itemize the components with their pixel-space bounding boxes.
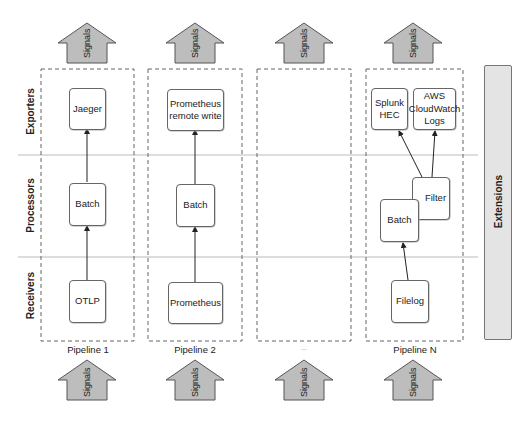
signal-arrow-label: Signals bbox=[190, 28, 200, 58]
signal-arrow-in-2: Signals bbox=[166, 360, 224, 400]
connector-filter-splunk bbox=[399, 131, 422, 177]
receiver-prometheus[interactable]: Prometheus bbox=[168, 282, 223, 324]
exporter-jaeger[interactable]: Jaeger bbox=[69, 88, 106, 130]
lane-label-receivers: Receivers bbox=[25, 251, 36, 341]
signal-arrow-in-1: Signals bbox=[58, 360, 116, 400]
processor-batch-2[interactable]: Batch bbox=[176, 184, 215, 227]
exporter-aws-cloudwatch-logs[interactable]: AWS CloudWatch Logs bbox=[413, 88, 456, 130]
extensions-label: Extensions bbox=[493, 157, 504, 247]
exporter-prometheus-remote-write[interactable]: Prometheus remote write bbox=[167, 89, 224, 131]
pipeline-label-ellipsis: ... bbox=[249, 344, 359, 351]
signal-arrow-in-3: Signals bbox=[275, 360, 333, 400]
connector-filter-cloudwatch bbox=[432, 131, 435, 177]
lane-label-exporters: Exporters bbox=[25, 67, 36, 157]
signal-arrow-label: Signals bbox=[408, 367, 418, 397]
signal-arrow-label: Signals bbox=[190, 367, 200, 397]
signal-arrow-label: Signals bbox=[82, 28, 92, 58]
signal-arrow-in-n: Signals bbox=[384, 360, 442, 400]
pipeline-label-1: Pipeline 1 bbox=[33, 344, 143, 355]
signal-arrow-out-3: Signals bbox=[275, 23, 333, 63]
processor-batch-1[interactable]: Batch bbox=[69, 183, 106, 226]
signal-arrow-label: Signals bbox=[82, 367, 92, 397]
receiver-otlp[interactable]: OTLP bbox=[69, 280, 106, 323]
pipeline-label-n: Pipeline N bbox=[360, 344, 470, 355]
signal-arrow-out-n: Signals bbox=[384, 23, 442, 63]
signal-arrow-out-1: Signals bbox=[58, 23, 116, 63]
processor-batch-n[interactable]: Batch bbox=[380, 199, 419, 242]
exporter-splunk-hec[interactable]: Splunk HEC bbox=[371, 88, 408, 130]
pipeline-3-box bbox=[257, 69, 351, 341]
signal-arrow-label: Signals bbox=[408, 28, 418, 58]
pipeline-label-2: Pipeline 2 bbox=[140, 344, 250, 355]
lane-label-processors: Processors bbox=[25, 161, 36, 251]
signal-arrow-label: Signals bbox=[299, 367, 309, 397]
signal-arrow-label: Signals bbox=[299, 28, 309, 58]
receiver-filelog[interactable]: Filelog bbox=[391, 280, 429, 323]
connector-filelog-batch bbox=[403, 243, 408, 280]
signal-arrow-out-2: Signals bbox=[166, 23, 224, 63]
